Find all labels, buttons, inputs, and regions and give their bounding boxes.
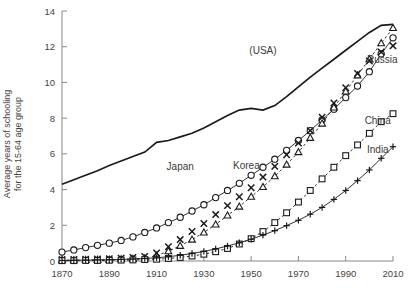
y-axis-tick-label: 0 (50, 256, 55, 267)
data-point-triangle (283, 161, 290, 167)
series-usa (62, 24, 393, 184)
x-axis-tick-label: 1910 (146, 268, 167, 279)
data-point-square (355, 142, 361, 148)
x-axis-tick-label: 1930 (193, 268, 214, 279)
data-point-triangle (200, 229, 207, 235)
data-point-circle (213, 195, 219, 201)
series-line (62, 38, 393, 252)
data-point-circle (343, 95, 349, 101)
schooling-line-chart: Average years of schooling for the 15-64… (0, 0, 410, 294)
y-axis-tick-label: 12 (44, 41, 55, 52)
plot-area: 0246810121418701890191019301950197019902… (0, 0, 410, 294)
series-label-russia: Russia (367, 54, 398, 65)
series-line (62, 28, 393, 260)
series-label-usa: (USA) (249, 45, 276, 56)
data-point-circle (224, 187, 230, 193)
data-point-circle (248, 172, 254, 178)
data-point-square (390, 111, 396, 117)
series-label-china: China (365, 115, 392, 126)
y-axis-tick-label: 8 (50, 113, 55, 124)
data-point-circle (106, 240, 112, 246)
data-point-circle (201, 202, 207, 208)
data-point-circle (260, 164, 266, 170)
data-point-circle (189, 208, 195, 214)
data-point-triangle (307, 134, 314, 140)
x-axis-tick-label: 2010 (382, 268, 403, 279)
x-axis-tick-label: 1890 (99, 268, 120, 279)
data-point-triangle (177, 242, 184, 248)
data-point-circle (272, 156, 278, 162)
data-point-circle (118, 237, 124, 243)
y-axis-tick-label: 10 (44, 77, 55, 88)
data-point-square (319, 176, 325, 182)
x-axis-tick-label: 1990 (335, 268, 356, 279)
y-axis-tick-label: 2 (50, 220, 55, 231)
data-point-circle (83, 245, 89, 251)
data-point-circle (142, 229, 148, 235)
series-line (62, 24, 393, 184)
data-point-circle (59, 249, 65, 255)
data-point-triangle (212, 221, 219, 227)
data-point-circle (177, 214, 183, 220)
series-label-japan: Japan (167, 161, 194, 172)
series-japan (59, 35, 396, 255)
data-point-square (343, 153, 349, 159)
data-point-square (331, 164, 337, 170)
y-axis-tick-label: 4 (50, 184, 55, 195)
series-label-india: India (367, 144, 389, 155)
data-point-circle (153, 225, 159, 231)
data-point-circle (236, 180, 242, 186)
y-axis-tick-label: 6 (50, 148, 55, 159)
data-point-circle (366, 69, 372, 75)
data-point-circle (94, 242, 100, 248)
series-layer (59, 24, 397, 263)
y-axis-tick-label: 14 (44, 6, 55, 17)
data-point-square (366, 130, 372, 136)
data-point-circle (130, 234, 136, 240)
series-label-korea: Korea (233, 160, 260, 171)
data-point-circle (165, 220, 171, 226)
data-point-triangle (224, 212, 231, 218)
series-labels: (USA)JapanKoreaRussiaChinaIndia (167, 45, 398, 172)
x-axis-tick-label: 1950 (241, 268, 262, 279)
data-point-square (296, 199, 302, 205)
data-point-circle (354, 83, 360, 89)
x-axis-tick-label: 1970 (288, 268, 309, 279)
series-korea (59, 24, 397, 262)
x-axis-tick-label: 1870 (51, 268, 72, 279)
data-point-square (284, 210, 290, 216)
data-point-circle (390, 35, 396, 41)
data-point-square (307, 188, 313, 194)
data-point-square (272, 220, 278, 226)
data-point-circle (71, 247, 77, 253)
data-point-triangle (189, 236, 196, 242)
